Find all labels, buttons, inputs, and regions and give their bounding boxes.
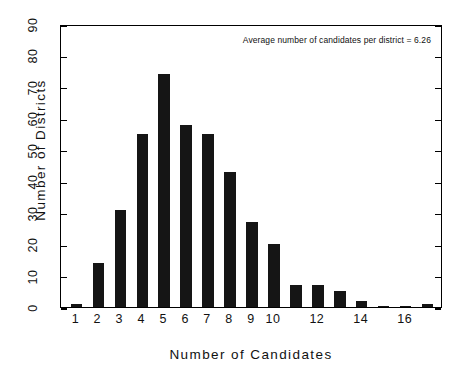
y-tick-mark-right — [435, 246, 441, 247]
bar — [202, 134, 213, 307]
y-tick-label: 90 — [26, 8, 40, 42]
bar — [71, 304, 82, 307]
y-tick-mark — [61, 246, 67, 247]
y-tick-label: 60 — [26, 102, 40, 136]
bar — [312, 285, 323, 307]
y-tick-label: 30 — [26, 197, 40, 231]
y-tick-mark — [61, 120, 67, 121]
y-tick-mark-right — [435, 57, 441, 58]
bar — [224, 172, 235, 307]
bar — [115, 210, 126, 307]
y-tick-label: 50 — [26, 134, 40, 168]
bar — [180, 125, 191, 307]
y-tick-mark — [61, 57, 67, 58]
y-tick-label: 40 — [26, 165, 40, 199]
bar — [356, 301, 367, 307]
bar — [378, 306, 389, 307]
y-tick-mark-right — [435, 88, 441, 89]
bar — [158, 74, 169, 307]
y-tick-mark-right — [435, 214, 441, 215]
y-tick-label: 70 — [26, 71, 40, 105]
y-tick-mark-right — [435, 25, 441, 26]
bars-layer — [61, 26, 441, 307]
y-tick-mark — [61, 214, 67, 215]
x-tick-label: 14 — [346, 312, 376, 326]
bar — [268, 244, 279, 307]
y-tick-mark — [61, 151, 67, 152]
bar — [334, 291, 345, 307]
x-tick-label: 16 — [390, 312, 420, 326]
y-tick-mark — [61, 183, 67, 184]
chart-annotation: Average number of candidates per distric… — [243, 35, 431, 45]
bar — [290, 285, 301, 307]
y-tick-label: 20 — [26, 228, 40, 262]
y-tick-mark-right — [435, 151, 441, 152]
plot-area: Average number of candidates per distric… — [60, 25, 442, 308]
y-tick-mark-right — [435, 120, 441, 121]
y-tick-mark-right — [435, 277, 441, 278]
y-tick-mark — [61, 308, 67, 309]
y-tick-mark — [61, 277, 67, 278]
bar — [400, 306, 411, 307]
y-tick-mark-right — [435, 308, 441, 309]
y-tick-mark-right — [435, 183, 441, 184]
y-tick-label: 80 — [26, 39, 40, 73]
bar — [422, 304, 433, 307]
y-tick-label: 0 — [26, 291, 40, 325]
y-tick-mark — [61, 88, 67, 89]
bar — [246, 222, 257, 307]
histogram-figure: Number of Districts Average number of ca… — [0, 0, 456, 385]
x-tick-label: 12 — [302, 312, 332, 326]
y-tick-mark — [61, 25, 67, 26]
bar — [137, 134, 148, 307]
x-tick-label: 10 — [258, 312, 288, 326]
x-axis-title: Number of Candidates — [60, 347, 442, 362]
y-tick-label: 10 — [26, 260, 40, 294]
bar — [93, 263, 104, 307]
